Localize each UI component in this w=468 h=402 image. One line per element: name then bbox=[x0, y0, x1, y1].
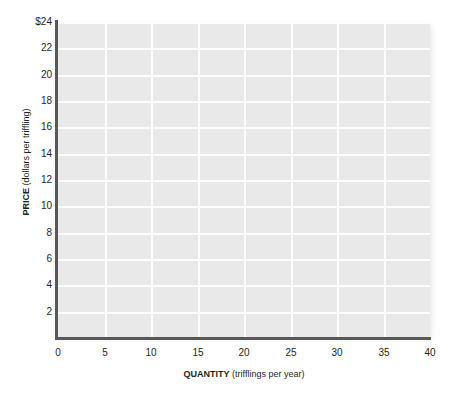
y-axis-tick-label: 22 bbox=[6, 43, 52, 53]
gridline-vertical bbox=[105, 22, 107, 338]
x-axis-title-bold: QUANTITY bbox=[184, 369, 230, 379]
gridline-vertical bbox=[151, 22, 153, 338]
x-axis-tick-label: 30 bbox=[317, 348, 357, 358]
gridline-vertical bbox=[337, 22, 339, 338]
chart-figure: 246810121416182022$24 0510152025303540 P… bbox=[0, 0, 468, 402]
y-axis-title-bold: PRICE bbox=[21, 188, 31, 216]
y-axis-line bbox=[55, 20, 58, 340]
x-axis-tick-label: 15 bbox=[178, 348, 218, 358]
y-axis-tick-label: 2 bbox=[6, 307, 52, 317]
x-axis-title-rest: (trifflings per year) bbox=[230, 369, 305, 379]
gridline-vertical bbox=[291, 22, 293, 338]
x-axis-title: QUANTITY (trifflings per year) bbox=[58, 369, 430, 379]
x-axis-tick-label: 20 bbox=[224, 348, 264, 358]
x-axis-tick-label: 25 bbox=[271, 348, 311, 358]
gridline-vertical bbox=[244, 22, 246, 338]
y-axis-tick-label: $24 bbox=[6, 17, 52, 27]
x-axis-tick-label: 0 bbox=[38, 348, 78, 358]
y-axis-title: PRICE (dollars per triffling) bbox=[21, 62, 31, 262]
x-axis-line bbox=[55, 337, 431, 340]
x-axis-tick-label: 35 bbox=[364, 348, 404, 358]
plot-area bbox=[58, 22, 430, 338]
y-axis-title-rest: (dollars per triffling) bbox=[21, 109, 31, 188]
x-axis-tick-label: 10 bbox=[131, 348, 171, 358]
gridline-vertical bbox=[384, 22, 386, 338]
gridline-vertical bbox=[198, 22, 200, 338]
x-axis-tick-label: 5 bbox=[85, 348, 125, 358]
x-axis-tick-label: 40 bbox=[410, 348, 450, 358]
y-axis-tick-label: 4 bbox=[6, 280, 52, 290]
